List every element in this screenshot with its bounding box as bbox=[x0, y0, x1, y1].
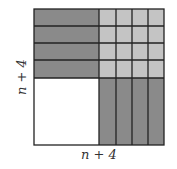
horizontal-strip bbox=[34, 60, 99, 78]
vertical-strip bbox=[132, 78, 148, 145]
vertical-strip bbox=[116, 78, 132, 145]
vertical-strip bbox=[148, 78, 164, 145]
n-squared-region bbox=[34, 78, 99, 145]
bottom-side-label: n + 4 bbox=[81, 147, 117, 162]
horizontal-strip bbox=[34, 9, 99, 26]
left-side-label: n + 4 bbox=[14, 59, 29, 95]
horizontal-strip bbox=[34, 43, 99, 60]
vertical-strip bbox=[99, 78, 116, 145]
horizontal-strip bbox=[34, 26, 99, 43]
area-model-diagram: n + 4 n + 4 bbox=[0, 0, 177, 169]
